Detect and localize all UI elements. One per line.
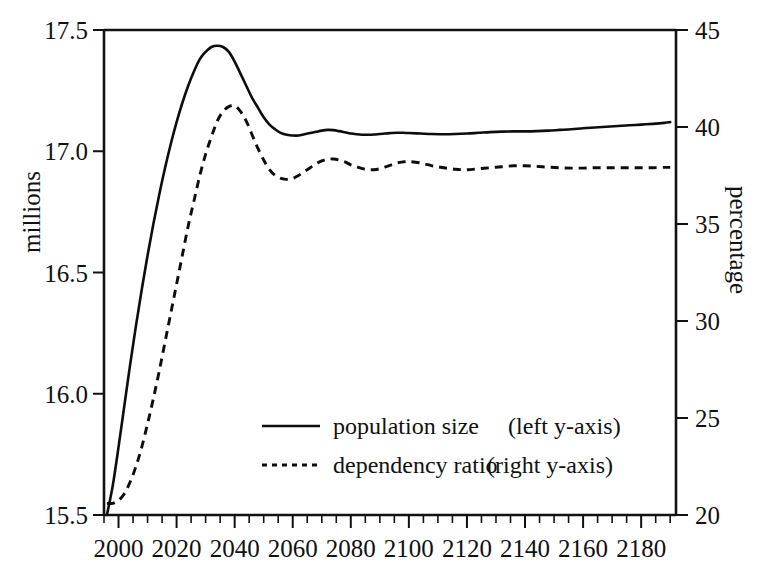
legend-axis-note-dependency-ratio: (right y-axis) <box>487 452 613 478</box>
x-tick-label: 2180 <box>616 535 666 562</box>
legend-item-population-size: population size (left y-axis) <box>262 413 621 439</box>
y-left-tick-label: 17.5 <box>44 17 88 44</box>
y-axis-title-right: percentage <box>725 186 752 294</box>
y-left-tick-label: 16.5 <box>44 260 88 287</box>
plot-frame <box>104 30 676 515</box>
legend-item-dependency-ratio: dependency ratio (right y-axis) <box>262 452 613 478</box>
x-tick-label: 2100 <box>384 535 434 562</box>
x-tick-label: 2020 <box>152 535 202 562</box>
series-line-dependency-ratio <box>107 105 670 503</box>
chart-container: 2000202020402060208021002120214021602180… <box>0 0 759 586</box>
legend-axis-note-population-size: (left y-axis) <box>508 413 621 439</box>
legend-label-dependency-ratio: dependency ratio <box>333 452 498 478</box>
y-right-tick-label: 45 <box>695 17 720 44</box>
x-tick-label: 2000 <box>94 535 144 562</box>
line-chart-figure: 2000202020402060208021002120214021602180… <box>0 0 759 586</box>
y-left-tick-label: 16.0 <box>44 381 88 408</box>
y-right-tick-label: 20 <box>695 502 720 529</box>
x-tick-label: 2040 <box>210 535 260 562</box>
x-tick-label: 2160 <box>558 535 608 562</box>
y-left-tick-label: 17.0 <box>44 138 88 165</box>
legend-label-population-size: population size <box>333 413 479 439</box>
y-right-tick-label: 25 <box>695 405 720 432</box>
data-series <box>107 46 670 515</box>
y-axis-title-left: millions <box>18 171 45 253</box>
y-right-tick-label: 40 <box>695 114 720 141</box>
x-tick-label: 2140 <box>500 535 550 562</box>
legend: population size (left y-axis) dependency… <box>262 413 621 478</box>
x-tick-label: 2120 <box>442 535 492 562</box>
y-right-tick-label: 30 <box>695 308 720 335</box>
x-tick-label: 2080 <box>326 535 376 562</box>
y-left-tick-label: 15.5 <box>44 502 88 529</box>
series-line-population-size <box>107 46 670 515</box>
y-right-tick-label: 35 <box>695 211 720 238</box>
axis-tick-labels: 2000202020402060208021002120214021602180… <box>44 17 720 562</box>
x-tick-label: 2060 <box>268 535 318 562</box>
